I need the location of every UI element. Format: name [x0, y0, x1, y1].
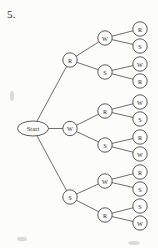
- tree-node-r: R: [63, 53, 77, 67]
- tree-edge: [112, 174, 133, 179]
- node-label: S: [138, 116, 142, 123]
- tree-edge: [112, 183, 133, 188]
- node-label: S: [103, 142, 107, 149]
- tree-edge: [112, 139, 133, 144]
- tree-node-w: W: [98, 31, 112, 45]
- tree-node-w: W: [133, 95, 147, 109]
- node-label: Start: [27, 125, 40, 132]
- tree-node-s: S: [98, 65, 112, 79]
- tree-edge: [77, 62, 98, 69]
- tree-edges: [37, 31, 133, 222]
- probability-tree-diagram: StartRWSWSRSWRRSWRWSRWRSSW: [0, 0, 158, 248]
- tree-edge: [112, 74, 133, 79]
- tree-node-s: S: [133, 39, 147, 53]
- tree-node-r: R: [98, 104, 112, 118]
- tree-edge: [76, 42, 99, 56]
- node-label: S: [138, 43, 142, 50]
- node-label: W: [67, 125, 73, 132]
- tree-node-w: W: [133, 57, 147, 71]
- tree-node-r: R: [133, 74, 147, 88]
- tree-edge: [77, 184, 99, 194]
- tree-edge: [112, 217, 133, 222]
- tree-node-s: S: [133, 182, 147, 196]
- node-label: W: [137, 220, 143, 227]
- tree-node-w: W: [133, 216, 147, 230]
- tree-edge: [77, 132, 99, 142]
- tree-node-s: S: [133, 112, 147, 126]
- node-label: S: [138, 186, 142, 193]
- tree-edge: [112, 66, 133, 71]
- tree-node-w: W: [63, 121, 77, 135]
- tree-node-w: W: [98, 174, 112, 188]
- tree-edge: [112, 31, 133, 36]
- tree-node-s: S: [133, 199, 147, 213]
- scan-artifacts: [10, 91, 140, 245]
- tree-node-s: S: [63, 190, 77, 204]
- tree-node-s: S: [98, 138, 112, 152]
- tree-node-r: R: [133, 22, 147, 36]
- tree-edge: [76, 200, 98, 211]
- tree-edge: [112, 40, 133, 45]
- node-label: S: [68, 194, 72, 201]
- node-label: S: [103, 69, 107, 76]
- tree-node-r: R: [133, 165, 147, 179]
- tree-edge: [37, 136, 67, 191]
- tree-node-r: R: [98, 208, 112, 222]
- node-label: W: [137, 61, 143, 68]
- tree-edge: [112, 147, 133, 152]
- start-node: Start: [18, 121, 49, 136]
- tree-node-w: W: [133, 147, 147, 161]
- tree-edge: [112, 104, 133, 109]
- tree-node-r: R: [133, 130, 147, 144]
- tree-edge: [112, 208, 133, 213]
- tree-edge: [37, 66, 67, 121]
- tree-edge: [112, 113, 133, 118]
- tree-nodes: StartRWSWSRSWRRSWRWSRWRSSW: [18, 22, 148, 230]
- node-label: S: [138, 203, 142, 210]
- node-label: W: [137, 151, 143, 158]
- tree-edge: [76, 114, 98, 125]
- node-label: W: [102, 35, 108, 42]
- node-label: W: [137, 99, 143, 106]
- node-label: W: [102, 178, 108, 185]
- worksheet-page: 5. StartRWSWSRSWRRSWRWSRWRSSW: [0, 0, 158, 248]
